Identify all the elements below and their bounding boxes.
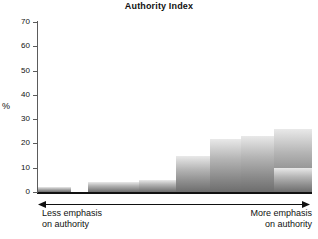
y-axis-tick-label: 60 — [0, 41, 30, 50]
x-axis-caption-left-line1: Less emphasis — [42, 208, 102, 219]
y-axis-tick-label: 10 — [0, 163, 30, 172]
bar — [88, 182, 139, 192]
y-axis-tick-label: 20 — [0, 138, 30, 147]
y-axis-tick-label: 0 — [0, 187, 30, 196]
y-axis-tick-label: 70 — [0, 17, 30, 26]
bar — [274, 168, 312, 192]
x-axis-caption-left-line2: on authority — [42, 219, 102, 230]
y-axis-tick-label: 40 — [0, 90, 30, 99]
bar — [210, 139, 241, 192]
bar — [241, 136, 274, 192]
chart-title: Authority Index — [0, 1, 318, 11]
y-axis-tick — [33, 192, 38, 193]
bar — [38, 187, 71, 192]
x-axis-caption-right-line1: More emphasis — [250, 208, 312, 219]
plot-area — [38, 22, 312, 192]
y-axis-tick-label: 50 — [0, 66, 30, 75]
x-axis-baseline — [37, 192, 312, 194]
y-axis-tick-label: 30 — [0, 114, 30, 123]
authority-index-chart: Authority Index % 010203040506070 Less e… — [0, 0, 318, 239]
x-axis-caption-right: More emphasis on authority — [250, 208, 312, 230]
y-axis-title: % — [2, 101, 10, 111]
bar — [139, 180, 176, 192]
x-axis-caption-left: Less emphasis on authority — [42, 208, 102, 230]
x-axis-caption-right-line2: on authority — [250, 219, 312, 230]
bar — [176, 156, 210, 192]
